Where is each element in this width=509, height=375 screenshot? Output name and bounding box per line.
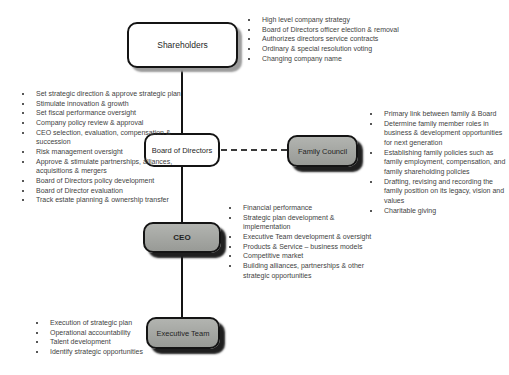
node-family-council-label: Family Council <box>298 147 347 156</box>
list-item: Operational accountability <box>47 328 207 338</box>
list-item: Set strategic direction & approve strate… <box>33 89 181 99</box>
list-item: Company policy review & approval <box>33 118 181 128</box>
vertical-connector-line <box>181 68 183 318</box>
list-item: Risk management oversight <box>33 147 181 157</box>
ceo-bullet-list: Financial performanceStrategic plan deve… <box>227 203 376 280</box>
node-family-council: Family Council <box>287 135 358 167</box>
shareholders-bullet-list: High level company strategyBoard of Dire… <box>246 15 409 63</box>
list-item: Identify strategic opportunities <box>47 347 207 357</box>
list-item: Competitive market <box>240 251 376 261</box>
list-item: Financial performance <box>240 203 376 213</box>
list-item: Board of Directors policy development <box>33 176 181 186</box>
node-ceo-label: CEO <box>173 233 190 242</box>
list-item: Approve & stimulate partnerships, allian… <box>33 157 181 176</box>
list-item: High level company strategy <box>259 15 409 25</box>
list-item: Primary link between family & Board <box>381 109 509 119</box>
list-item: Execution of strategic plan <box>47 318 207 328</box>
node-shareholders-label: Shareholders <box>157 40 208 50</box>
family-council-bullet-list: Primary link between family & BoardDeter… <box>368 109 509 215</box>
list-item: CEO selection, evaluation, compensation … <box>33 128 181 147</box>
list-item: Ordinary & special resolution voting <box>259 44 409 54</box>
executive-team-bullet-list: Execution of strategic planOperational a… <box>34 318 207 357</box>
list-item: Executive Team development & oversight <box>240 232 376 242</box>
list-item: Drafting, revising and recording the fam… <box>381 177 509 206</box>
list-item: Set fiscal performance oversight <box>33 108 181 118</box>
list-item: Building alliances, partnerships & other… <box>240 261 376 280</box>
list-item: Talent development <box>47 337 207 347</box>
list-item: Strategic plan development & implementat… <box>240 213 376 232</box>
board-bullet-list: Set strategic direction & approve strate… <box>20 89 181 205</box>
list-item: Establishing family policies such as fam… <box>381 148 509 177</box>
list-item: Determine family member roles in busines… <box>381 119 509 148</box>
list-item: Stimulate innovation & growth <box>33 99 181 109</box>
list-item: Board of Directors officer election & re… <box>259 25 409 35</box>
list-item: Charitable giving <box>381 206 509 216</box>
org-chart-diagram: Shareholders Board of Directors Family C… <box>0 0 509 375</box>
list-item: Changing company name <box>259 54 409 64</box>
node-shareholders: Shareholders <box>127 22 238 68</box>
node-ceo: CEO <box>143 222 221 253</box>
list-item: Authorizes directors service contracts <box>259 34 409 44</box>
dashed-connector-line <box>221 149 287 151</box>
list-item: Track estate planning & ownership transf… <box>33 195 181 205</box>
list-item: Board of Director evaluation <box>33 186 181 196</box>
list-item: Products & Service – business models <box>240 242 376 252</box>
